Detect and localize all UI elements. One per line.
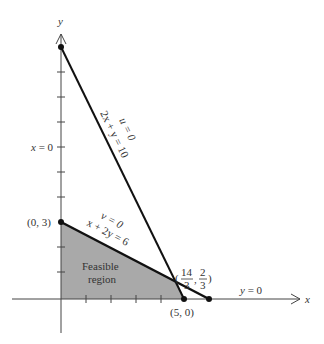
svg-text:3: 3 <box>184 279 190 291</box>
svg-text:,: , <box>194 273 197 285</box>
vertex-0-10 <box>58 44 64 50</box>
vertex-label-intersection: ( 14 3 , 2 3 ) <box>175 266 212 291</box>
svg-text:(: ( <box>175 272 179 285</box>
y-axis-label: y <box>57 15 63 27</box>
lp-diagram: y x x = 0 y = 0 u = 0 2x + y = 10 v = 0 … <box>0 0 324 344</box>
vertex-0-3 <box>58 219 64 225</box>
svg-text:3: 3 <box>200 279 206 291</box>
vertex-5-0 <box>181 296 187 302</box>
x-axis-label: x <box>304 293 310 305</box>
region-label-line1: Feasible <box>82 260 119 272</box>
vertex-label-5-0: (5, 0) <box>170 306 194 319</box>
vertex-6-0 <box>206 296 212 302</box>
region-label-line2: region <box>88 273 117 285</box>
svg-text:): ) <box>208 272 212 285</box>
svg-text:14: 14 <box>181 266 193 278</box>
vertex-label-0-3: (0, 3) <box>27 216 51 229</box>
y-axis-equation: x = 0 <box>30 141 54 153</box>
svg-text:2: 2 <box>200 266 206 278</box>
x-axis-equation: y = 0 <box>239 284 263 296</box>
